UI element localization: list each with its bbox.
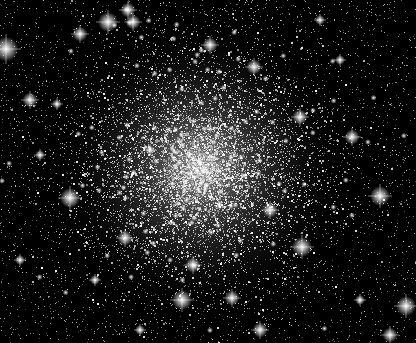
globular-cluster-image	[0, 0, 416, 343]
star-field-canvas	[0, 0, 416, 343]
